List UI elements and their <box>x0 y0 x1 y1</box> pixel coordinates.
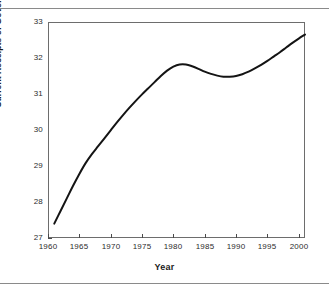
x-tick-mark <box>267 234 268 238</box>
x-tick-label: 2000 <box>284 243 314 251</box>
y-tick-label: 27 <box>25 234 43 242</box>
top-divider-rule <box>0 8 329 9</box>
x-tick-label: 1970 <box>96 243 126 251</box>
x-tick-mark <box>142 234 143 238</box>
y-axis-label: Current Receipts of Government/GDP <box>0 0 3 130</box>
x-tick-mark <box>48 234 49 238</box>
bottom-divider-rule <box>0 283 329 284</box>
plot-area <box>48 22 305 238</box>
x-tick-label: 1990 <box>221 243 251 251</box>
x-tick-label: 1980 <box>158 243 188 251</box>
x-tick-label: 1975 <box>127 243 157 251</box>
y-tick-label: 32 <box>25 54 43 62</box>
x-tick-label: 1995 <box>252 243 282 251</box>
x-tick-label: 1965 <box>64 243 94 251</box>
y-tick-label: 30 <box>25 126 43 134</box>
y-tick-mark <box>48 238 52 239</box>
x-tick-label: 1985 <box>190 243 220 251</box>
y-tick-label: 29 <box>25 162 43 170</box>
y-tick-label: 31 <box>25 90 43 98</box>
series-line-path <box>54 35 305 224</box>
x-tick-label: 1960 <box>33 243 63 251</box>
x-tick-mark <box>205 234 206 238</box>
y-tick-label: 28 <box>25 198 43 206</box>
x-tick-mark <box>79 234 80 238</box>
chart-figure: Current Receipts of Government/GDP 27282… <box>0 0 329 292</box>
x-tick-mark <box>173 234 174 238</box>
x-tick-mark <box>111 234 112 238</box>
x-axis-label: Year <box>0 262 329 272</box>
x-tick-mark <box>299 234 300 238</box>
x-tick-mark <box>236 234 237 238</box>
data-series-curve <box>48 22 305 238</box>
y-tick-label: 33 <box>25 18 43 26</box>
